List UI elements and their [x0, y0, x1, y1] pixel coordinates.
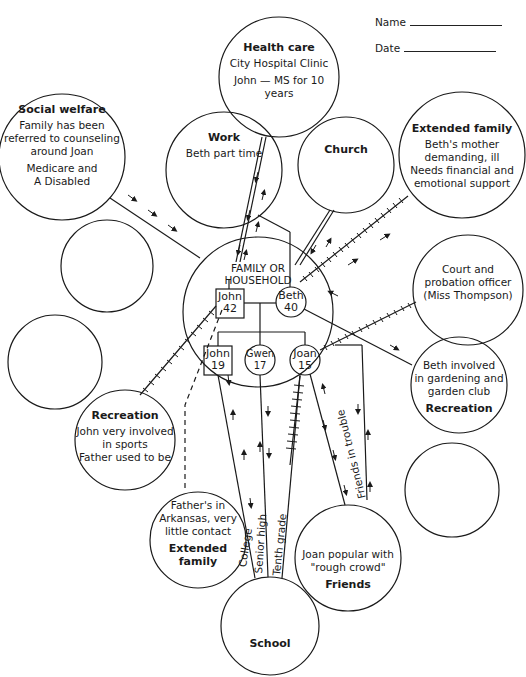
school-node: School [230, 637, 310, 653]
date-label: Date [375, 42, 400, 54]
empty-circle-2 [8, 315, 102, 409]
member-age: 42 [223, 302, 237, 315]
health-care-title: Health care [219, 41, 339, 54]
member-age: 40 [284, 301, 298, 314]
recreation-beth-line: in gardening and [404, 372, 514, 385]
extended-family-father-line: little contact [148, 525, 248, 538]
recreation-beth-node: Beth involved in gardening and garden cl… [404, 359, 514, 418]
recreation-john-node: Recreation John very involved in sports … [75, 409, 175, 464]
name-field[interactable]: Name [375, 16, 502, 28]
extended-family-father-title: Extended family [148, 542, 248, 568]
social-welfare-line: Medicare and [2, 162, 122, 175]
member-age: 15 [298, 359, 312, 372]
court-node: Court and probation officer (Miss Thomps… [413, 263, 523, 302]
recreation-beth-title: Recreation [404, 402, 514, 415]
household-title-line: HOUSEHOLD [208, 274, 308, 286]
extended-family-line: Needs financial and [402, 164, 522, 177]
member-beth-40: Beth 40 [276, 290, 306, 314]
health-care-line: John — MS for 10 years [219, 74, 339, 100]
friends-line: "rough crowd" [293, 561, 403, 574]
ecomap-diagram [0, 0, 526, 677]
work-title: Work [174, 131, 274, 144]
recreation-john-line: in sports [75, 438, 175, 451]
friends-title: Friends [293, 578, 403, 591]
social-welfare-line: Family has been [2, 119, 122, 132]
school-title: School [230, 637, 310, 650]
recreation-beth-line: Beth involved [404, 359, 514, 372]
social-welfare-line: around Joan [2, 145, 122, 158]
work-line: Beth part time [174, 147, 274, 160]
work-circle [166, 112, 282, 228]
church-node: Church [306, 143, 386, 159]
household-title-line: FAMILY OR [208, 262, 308, 274]
church-title: Church [306, 143, 386, 156]
member-john-42: John 42 [216, 291, 244, 315]
recreation-john-title: Recreation [75, 409, 175, 422]
member-age: 17 [254, 360, 267, 371]
friends-line: Joan popular with [293, 548, 403, 561]
empty-circle-1 [61, 220, 153, 312]
extended-family-title: Extended family [402, 122, 522, 135]
member-name: Gwen [246, 348, 274, 359]
social-welfare-node: Social welfare Family has been referred … [2, 103, 122, 188]
court-line: (Miss Thompson) [413, 289, 523, 302]
work-node: Work Beth part time [174, 131, 274, 160]
empty-circle-3 [405, 443, 499, 537]
member-joan-15: Joan 15 [289, 348, 321, 372]
recreation-john-line: Father used to be [75, 451, 175, 464]
extended-family-father-line: Arkansas, very [148, 512, 248, 525]
social-welfare-line: referred to counseling [2, 132, 122, 145]
extended-family-line: emotional support [402, 177, 522, 190]
extended-family-beth-node: Extended family Beth's mother demanding,… [402, 122, 522, 190]
household-title: FAMILY OR HOUSEHOLD [208, 262, 308, 286]
member-age: 19 [211, 359, 225, 372]
extended-family-father-node: Father's in Arkansas, very little contac… [148, 499, 248, 571]
name-line[interactable] [410, 25, 502, 26]
extended-family-father-line: Father's in [148, 499, 248, 512]
extended-family-line: demanding, ill [402, 151, 522, 164]
social-welfare-title: Social welfare [2, 103, 122, 116]
church-circle [298, 117, 394, 213]
friends-node: Joan popular with "rough crowd" Friends [293, 548, 403, 594]
court-line: Court and [413, 263, 523, 276]
name-label: Name [375, 16, 406, 28]
recreation-beth-line: garden club [404, 385, 514, 398]
court-line: probation officer [413, 276, 523, 289]
health-care-line: City Hospital Clinic [219, 57, 339, 70]
extended-family-line: Beth's mother [402, 138, 522, 151]
health-care-node: Health care City Hospital Clinic John — … [219, 41, 339, 100]
member-john-19: John 19 [204, 348, 232, 372]
social-welfare-line: A Disabled [2, 175, 122, 188]
member-gwen-17: Gwen 17 [244, 348, 276, 372]
date-field[interactable]: Date [375, 42, 496, 54]
recreation-john-line: John very involved [75, 425, 175, 438]
date-line[interactable] [404, 51, 496, 52]
